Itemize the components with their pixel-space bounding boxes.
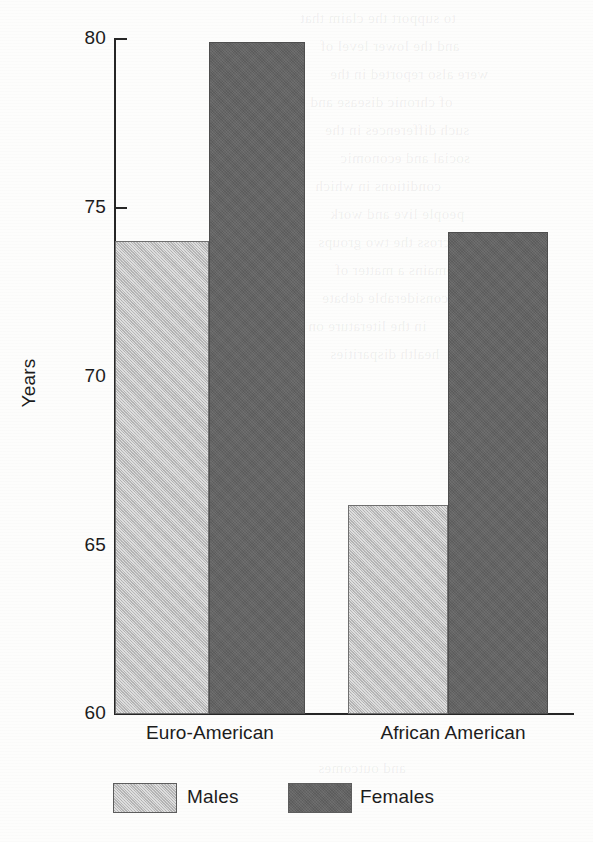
bar-females-african-american[interactable] <box>448 232 548 714</box>
chart-page: to support the claim that and the lower … <box>0 0 593 842</box>
y-tick-label: 80 <box>58 27 106 49</box>
y-axis-title: Years <box>18 328 40 438</box>
y-tick-mark <box>116 38 127 40</box>
legend-swatch-males <box>113 783 177 813</box>
y-tick-label: 75 <box>58 196 106 218</box>
legend-label-males: Males <box>187 786 239 808</box>
bar-males-african-american[interactable] <box>348 505 448 714</box>
y-tick-mark <box>116 207 127 209</box>
category-label-euro-american: Euro-American <box>125 722 295 744</box>
y-tick-label: 65 <box>58 534 106 556</box>
bar-females-euro-american[interactable] <box>209 42 305 714</box>
bar-males-euro-american[interactable] <box>115 241 209 714</box>
legend-label-females: Females <box>360 786 434 808</box>
legend-swatch-females <box>288 783 352 813</box>
y-tick-label: 60 <box>58 702 106 724</box>
y-tick-label: 70 <box>58 365 106 387</box>
bar-chart: Years 80 75 70 65 60 Euro-American Afric… <box>0 0 593 842</box>
category-label-african-american: African American <box>363 722 543 744</box>
